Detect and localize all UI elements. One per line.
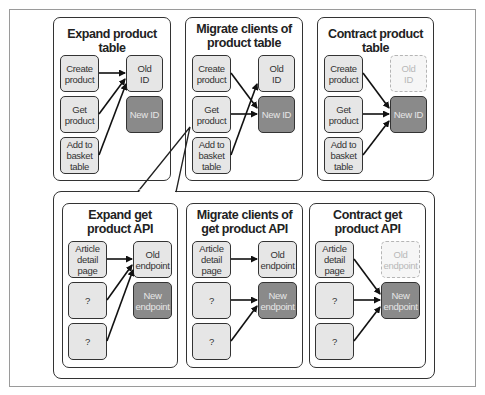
client-article-detail-page: Article detail page — [192, 241, 231, 278]
client-unknown: ? — [68, 323, 107, 360]
target-new-endpoint: New endpoint — [258, 282, 297, 319]
panel-title: Migrate clients of get product API — [187, 208, 302, 236]
client-add-to-basket-table: Add to basket table — [324, 137, 363, 174]
client-unknown: ? — [192, 282, 231, 319]
client-get-product: Get product — [192, 96, 231, 133]
panel-title: Contract get product API — [310, 208, 425, 236]
target-new-endpoint: New endpoint — [381, 282, 420, 319]
target-old-endpoint: Old endpoint — [133, 241, 172, 278]
target-new-endpoint: New endpoint — [133, 282, 172, 319]
client-add-to-basket-table: Add to basket table — [192, 137, 231, 174]
client-create-product: Create product — [60, 55, 99, 92]
target-old-endpoint-removed: Old endpoint — [381, 241, 420, 278]
client-create-product: Create product — [192, 55, 231, 92]
client-unknown: ? — [68, 282, 107, 319]
client-get-product: Get product — [60, 96, 99, 133]
panel-title: Migrate clients of product table — [186, 22, 302, 50]
target-old-id: Old ID — [126, 55, 163, 92]
panel-title: Expand product table — [54, 27, 170, 55]
client-article-detail-page: Article detail page — [68, 241, 107, 278]
client-create-product: Create product — [324, 55, 363, 92]
target-old-id: Old ID — [258, 55, 295, 92]
target-old-endpoint: Old endpoint — [258, 241, 297, 278]
client-article-detail-page: Article detail page — [315, 241, 354, 278]
target-new-id: New ID — [126, 96, 163, 133]
client-add-to-basket-table: Add to basket table — [60, 137, 99, 174]
client-unknown: ? — [315, 282, 354, 319]
client-unknown: ? — [315, 323, 354, 360]
panel-title: Contract product table — [318, 27, 433, 55]
target-new-id: New ID — [390, 96, 427, 133]
panel-title: Expand get product API — [63, 208, 177, 236]
target-new-id: New ID — [258, 96, 295, 133]
client-unknown: ? — [192, 323, 231, 360]
client-get-product: Get product — [324, 96, 363, 133]
target-old-id-removed: Old ID — [390, 55, 427, 92]
